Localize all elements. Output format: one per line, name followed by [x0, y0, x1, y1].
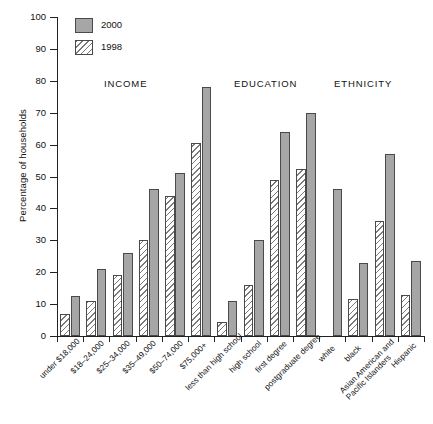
section-header-income: INCOME	[104, 78, 147, 89]
bar-2000	[175, 173, 185, 336]
bars-layer	[57, 17, 424, 336]
bar-2000	[280, 132, 290, 336]
bar-1998	[296, 169, 306, 336]
bar-2000	[411, 261, 421, 336]
x-axis-tick	[83, 336, 84, 342]
y-axis-tick	[50, 240, 57, 241]
bar-1998	[375, 221, 385, 336]
legend-swatch-solid-gray-icon	[75, 18, 93, 33]
x-axis-label: black	[343, 343, 364, 364]
y-axis-tick-label: 0	[2, 331, 46, 341]
bar-1998	[191, 143, 201, 336]
bar-2000	[385, 154, 395, 336]
y-axis-tick-label: 70	[2, 108, 46, 118]
bar-1998	[139, 240, 149, 336]
x-axis-tick	[398, 336, 399, 342]
y-axis-tick	[50, 208, 57, 209]
x-axis-label: white	[317, 343, 338, 364]
x-axis-tick	[267, 336, 268, 342]
x-axis-tick	[345, 336, 346, 342]
y-axis-tick-label: 30	[2, 235, 46, 245]
legend-label-1998: 1998	[101, 41, 122, 52]
y-axis-tick	[50, 17, 57, 18]
bar-1998	[60, 314, 70, 336]
x-axis-tick	[109, 336, 110, 342]
y-axis-tick	[50, 336, 57, 337]
y-axis-tick-label: 100	[2, 12, 46, 22]
bar-2000	[97, 269, 107, 336]
bar-1998	[113, 275, 123, 336]
bar-2000	[228, 301, 238, 336]
x-axis-tick	[162, 336, 163, 342]
bar-2000	[359, 263, 369, 336]
bar-1998	[270, 180, 280, 336]
bar-1998	[348, 299, 358, 336]
bar-2000	[254, 240, 264, 336]
y-axis-tick	[50, 177, 57, 178]
bar-1998	[86, 301, 96, 336]
section-header-education: EDUCATION	[234, 78, 297, 89]
y-axis-tick-label: 20	[2, 267, 46, 277]
x-axis-tick	[136, 336, 137, 342]
y-axis-tick	[50, 81, 57, 82]
bar-2000	[333, 189, 343, 336]
y-axis-tick-label: 40	[2, 203, 46, 213]
bar-1998	[217, 322, 227, 336]
legend-label-2000: 2000	[101, 19, 122, 30]
x-axis-tick	[424, 336, 425, 342]
section-header-ethnicity: ETHNICITY	[334, 78, 392, 89]
y-axis-tick	[50, 145, 57, 146]
y-axis-tick-label: 60	[2, 140, 46, 150]
x-axis-tick	[57, 336, 58, 342]
bar-2000	[306, 113, 316, 336]
x-axis-tick	[188, 336, 189, 342]
x-axis-tick	[293, 336, 294, 342]
legend-swatch-hatched-icon	[75, 40, 93, 55]
bar-2000	[123, 253, 133, 336]
bar-2000	[71, 296, 81, 336]
bar-chart: Percentage of households 010203040506070…	[0, 0, 433, 424]
y-axis-tick-label: 80	[2, 76, 46, 86]
x-axis-tick	[214, 336, 215, 342]
x-axis-label: under $18,000	[38, 343, 76, 381]
y-axis-tick	[50, 113, 57, 114]
y-axis-tick	[50, 272, 57, 273]
bar-2000	[202, 87, 212, 336]
bar-1998	[401, 295, 411, 336]
bar-2000	[149, 189, 159, 336]
y-axis-tick-label: 90	[2, 44, 46, 54]
y-axis-tick	[50, 49, 57, 50]
bar-1998	[165, 196, 175, 336]
bar-1998	[244, 285, 254, 336]
y-axis-tick	[50, 304, 57, 305]
y-axis-tick-label: 10	[2, 299, 46, 309]
y-axis-tick-label: 50	[2, 172, 46, 182]
x-axis-tick	[372, 336, 373, 342]
